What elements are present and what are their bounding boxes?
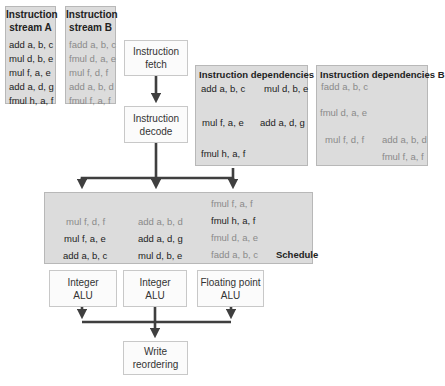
deps-b-node: fmul d, a, e [320, 107, 367, 119]
floating-point-alu: Floating point ALU [197, 270, 264, 307]
stream-a-instruction: fmul h, a, f [9, 94, 55, 108]
instruction-stream-b: Instructionstream B fadd a, b, c fmul d,… [65, 6, 116, 104]
write-label-line1: Write [144, 345, 167, 358]
stream-b-instruction: fadd a, b, c [69, 38, 115, 52]
deps-a-title: Instruction dependencies A [199, 68, 323, 81]
schedule-col2-item: mul d, b, e [138, 250, 182, 262]
alu2-label-line2: ALU [145, 289, 164, 302]
write-reordering-box: Write reordering [123, 341, 188, 375]
stream-a-instruction: mul f, a, e [9, 66, 55, 80]
stream-a-instruction: add a, d, g [9, 80, 55, 94]
deps-a-node: add a, b, c [201, 83, 245, 95]
integer-alu-2: Integer ALU [123, 270, 187, 307]
deps-a-node: fmul h, a, f [201, 148, 245, 160]
stream-b-instruction: mul f, d, f [69, 66, 115, 80]
write-label-line2: reordering [133, 358, 179, 371]
schedule-label: Schedule [276, 249, 318, 261]
deps-b-node: add a, b, d [382, 134, 427, 146]
instruction-fetch-box: Instruction fetch [124, 40, 188, 76]
decode-label-line2: decode [140, 125, 173, 138]
instruction-stream-a: Instructionstream A add a, b, c mul d, b… [5, 6, 56, 104]
stream-b-instruction: fmul d, a, e [69, 52, 115, 66]
alu2-label-line1: Integer [139, 276, 170, 289]
instruction-decode-box: Instruction decode [124, 106, 188, 143]
schedule-col3-item: fmul h, a, f [211, 215, 255, 227]
stream-b-title: Instructionstream B [66, 8, 115, 34]
deps-b-node: mul f, d, f [325, 134, 364, 146]
stream-b-instruction: add a, b, d [69, 80, 115, 94]
schedule-col2-item: add a, d, g [138, 233, 183, 245]
decode-label-line1: Instruction [133, 112, 179, 125]
stream-a-instruction: add a, b, c [9, 38, 55, 52]
schedule-col3-item: fmul f, a, f [211, 198, 253, 210]
instruction-dependencies-a: Instruction dependencies A add a, b, c m… [195, 65, 308, 166]
stream-a-title: Instructionstream A [6, 8, 55, 34]
stream-b-instruction: fmul f, a, f [69, 94, 115, 108]
alu1-label-line2: ALU [73, 289, 92, 302]
instruction-dependencies-b: Instruction dependencies B fadd a, b, c … [316, 65, 428, 166]
schedule-col2-item: add a, b, d [138, 216, 183, 228]
schedule-box: mul f, d, f mul f, a, e add a, b, c add … [44, 192, 313, 264]
deps-a-node: mul d, b, e [264, 83, 308, 95]
alu3-label-line2: ALU [221, 289, 240, 302]
fetch-label-line2: fetch [145, 58, 167, 71]
stream-a-instruction: mul d, b, e [9, 52, 55, 66]
deps-b-node: fadd a, b, c [321, 81, 368, 93]
schedule-col1-item: mul f, a, e [64, 233, 106, 245]
schedule-col3-item: fadd a, b, c [211, 249, 258, 261]
alu3-label-line1: Floating point [200, 276, 260, 289]
deps-a-node: add a, d, g [260, 117, 305, 129]
integer-alu-1: Integer ALU [49, 270, 117, 307]
schedule-col1-item: add a, b, c [63, 250, 107, 262]
deps-b-node: fmul f, a, f [382, 151, 424, 163]
fetch-label-line1: Instruction [133, 45, 179, 58]
alu1-label-line1: Integer [67, 276, 98, 289]
deps-b-title: Instruction dependencies B [320, 68, 445, 81]
schedule-col3-item: fmul d, a, e [211, 232, 258, 244]
schedule-col1-item: mul f, d, f [66, 216, 105, 228]
deps-a-node: mul f, a, e [202, 117, 244, 129]
